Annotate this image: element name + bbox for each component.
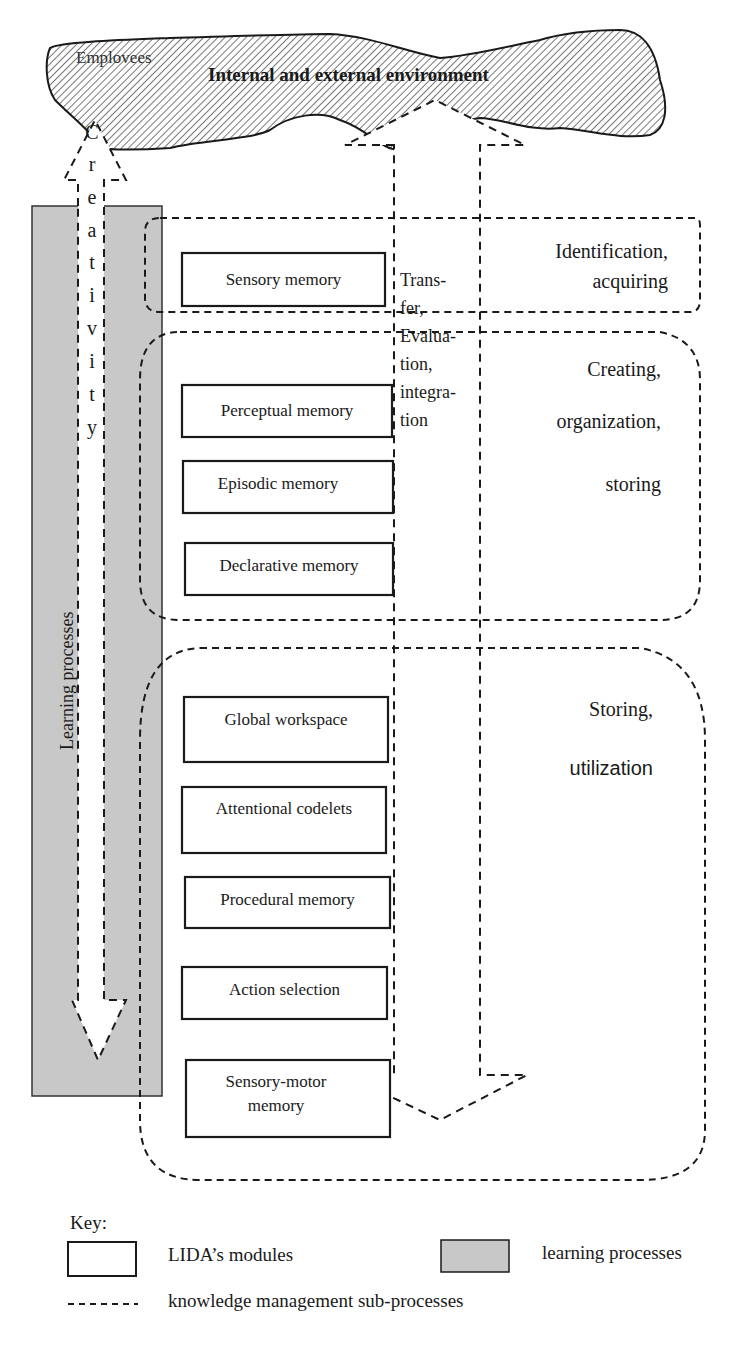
- phase-creating-line1: Creating,: [587, 358, 661, 381]
- creativity-letter: v: [82, 317, 102, 340]
- creativity-letter: a: [82, 219, 102, 242]
- key-km-label: knowledge management sub-processes: [168, 1290, 463, 1312]
- creativity-letter: t: [82, 383, 102, 406]
- module-box-attentional: [182, 787, 386, 853]
- module-label-sensory-motor-2: memory: [186, 1096, 366, 1116]
- transfer-line: tion: [400, 406, 428, 434]
- learning-processes-label: Learning processes: [57, 612, 78, 750]
- transfer-line: Evalua-: [400, 322, 456, 350]
- transfer-line: tion,: [400, 350, 433, 378]
- phase-identification-line1: Identification,: [555, 240, 668, 263]
- creativity-letter: y: [82, 416, 102, 439]
- phase-creating-line3: storing: [605, 473, 661, 496]
- creativity-letter: r: [82, 153, 102, 176]
- creativity-letter: e: [82, 186, 102, 209]
- key-title: Key:: [70, 1212, 107, 1234]
- key-modules-label: LIDA’s modules: [168, 1244, 293, 1266]
- module-label-action: Action selection: [182, 980, 387, 1000]
- creativity-letter: t: [82, 251, 102, 274]
- key-module-swatch: [68, 1242, 136, 1276]
- creativity-letter: i: [82, 350, 102, 373]
- phase-identification-line2: acquiring: [592, 270, 668, 293]
- phase-creating-line2: organization,: [556, 410, 661, 433]
- module-label-procedural: Procedural memory: [185, 890, 390, 910]
- phase-storing-line2: utilization: [570, 757, 653, 780]
- transfer-line: integra-: [400, 378, 456, 406]
- module-label-sensory-motor: Sensory-motor: [186, 1072, 366, 1092]
- key-learning-label: learning processes: [542, 1242, 682, 1264]
- module-label-attentional: Attentional codelets: [182, 799, 386, 819]
- employees-label: Emplovees: [76, 48, 152, 68]
- creativity-letter: C: [82, 121, 102, 144]
- module-label-declarative: Declarative memory: [185, 556, 393, 576]
- creativity-letter: i: [82, 284, 102, 307]
- module-label-global: Global workspace: [184, 710, 388, 730]
- key-learning-swatch: [441, 1240, 509, 1272]
- module-label-sensory: Sensory memory: [182, 270, 385, 290]
- transfer-line: fer,: [400, 294, 424, 322]
- diagram-canvas: [0, 0, 753, 1347]
- module-label-perceptual: Perceptual memory: [182, 401, 392, 421]
- transfer-line: Trans-: [400, 266, 446, 294]
- phase-storing-line1: Storing,: [589, 698, 653, 721]
- environment-title: Internal and external environment: [208, 64, 489, 86]
- module-label-episodic: Episodic memory: [183, 474, 373, 494]
